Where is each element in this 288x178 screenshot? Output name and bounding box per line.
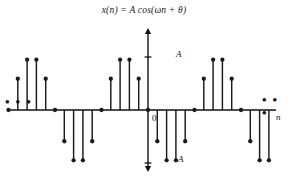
sample-point xyxy=(220,58,224,62)
x-axis-label: n xyxy=(276,112,281,122)
sample-point xyxy=(211,58,215,62)
sample-point xyxy=(16,77,20,81)
sample-point xyxy=(53,108,57,112)
y-axis-arrow-up xyxy=(145,28,151,34)
ellipsis-left: • • • xyxy=(5,95,32,108)
y-axis-arrow-down xyxy=(145,166,151,172)
sample-point xyxy=(202,77,206,81)
sample-point xyxy=(90,139,94,143)
sample-point xyxy=(62,139,66,143)
sample-point xyxy=(164,158,168,162)
axes-layer xyxy=(8,28,276,172)
sample-point xyxy=(34,58,38,62)
sample-point xyxy=(192,108,196,112)
stem-plot-canvas xyxy=(0,0,288,178)
sample-point xyxy=(99,108,103,112)
origin-label: 0 xyxy=(152,113,157,123)
sample-point xyxy=(155,139,159,143)
sample-point xyxy=(127,58,131,62)
sample-point xyxy=(137,77,141,81)
sample-point xyxy=(248,139,252,143)
sample-point xyxy=(239,108,243,112)
sample-point xyxy=(118,58,122,62)
sample-point xyxy=(146,108,150,112)
sample-point xyxy=(71,158,75,162)
discrete-cosine-figure: x(n) = A cos(ωn + θ) • • • • • • A -A 0 … xyxy=(0,0,288,178)
sample-point xyxy=(230,77,234,81)
y-axis-label-negative-amplitude: -A xyxy=(175,154,184,164)
sample-point xyxy=(25,58,29,62)
sample-point xyxy=(183,139,187,143)
sample-point xyxy=(81,158,85,162)
sample-point xyxy=(267,158,271,162)
sample-point xyxy=(44,77,48,81)
sample-point xyxy=(257,158,261,162)
y-axis-label-positive-amplitude: A xyxy=(176,49,182,59)
ellipsis-right: • • • xyxy=(262,93,288,119)
sample-point xyxy=(109,77,113,81)
